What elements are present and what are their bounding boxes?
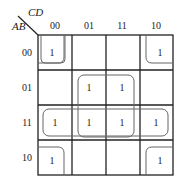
cell-2-3: 1 [154, 117, 159, 128]
cell-3-3: 1 [158, 155, 163, 166]
cell-0-3: 1 [158, 47, 163, 58]
row-label-11: 11 [22, 117, 32, 128]
col-label-01: 01 [84, 20, 94, 31]
col-label-10: 10 [151, 20, 161, 31]
cell-1-2: 1 [120, 82, 125, 93]
cell-0-0: 1 [50, 47, 55, 58]
col-label-11: 11 [117, 20, 127, 31]
row-var-label: AB [11, 20, 26, 32]
cell-1-1: 1 [87, 82, 92, 93]
grid [38, 35, 173, 175]
row-label-10: 10 [22, 152, 32, 163]
cell-3-0: 1 [50, 155, 55, 166]
karnaugh-map: CD AB 00 01 11 10 00 01 11 10 1 1 [0, 0, 182, 189]
cell-2-2: 1 [120, 117, 125, 128]
cell-2-1: 1 [87, 117, 92, 128]
col-var-label: CD [28, 6, 43, 18]
row-label-01: 01 [22, 82, 32, 93]
row-label-00: 00 [22, 47, 32, 58]
cell-2-0: 1 [53, 117, 58, 128]
col-label-00: 00 [50, 20, 60, 31]
